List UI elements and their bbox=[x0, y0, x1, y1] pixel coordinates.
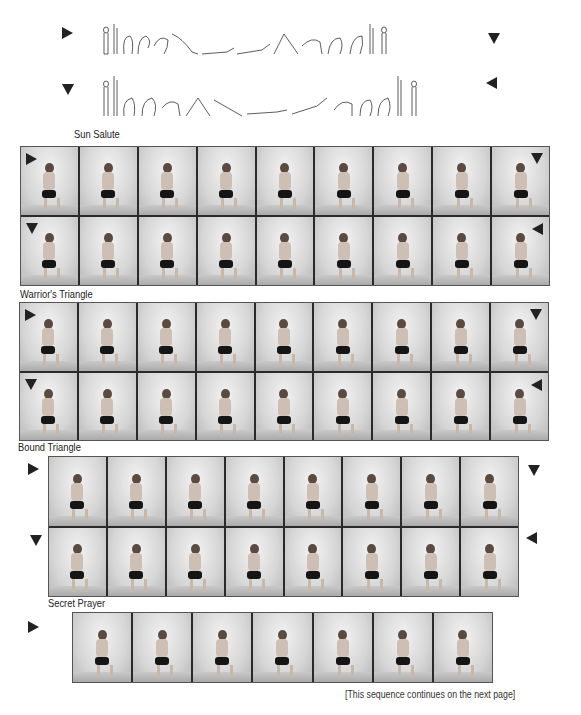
pose-photo bbox=[491, 373, 548, 441]
section-label-bound-triangle: Bound Triangle bbox=[18, 441, 81, 453]
pose-photo bbox=[257, 147, 314, 215]
section-label-sun-salute: Sun Salute bbox=[74, 128, 120, 140]
pose-photo bbox=[315, 217, 372, 285]
down-arrow-icon bbox=[531, 153, 543, 164]
pose-photo bbox=[256, 373, 313, 441]
pose-photo bbox=[314, 613, 372, 682]
pose-photo bbox=[79, 303, 136, 371]
pose-photo bbox=[374, 147, 431, 215]
pose-photo bbox=[256, 303, 313, 371]
pose-photo bbox=[373, 303, 430, 371]
pose-photo bbox=[402, 457, 459, 526]
pose-photo bbox=[257, 217, 314, 285]
down-arrow-icon bbox=[530, 309, 542, 320]
pose-photo bbox=[167, 457, 224, 526]
pose-photo bbox=[314, 303, 371, 371]
pose-photo bbox=[491, 303, 548, 371]
pose-photo bbox=[80, 217, 137, 285]
row-start-arrow bbox=[28, 621, 39, 633]
pose-photo bbox=[138, 373, 195, 441]
pose-photo bbox=[138, 303, 195, 371]
pose-photo bbox=[461, 457, 518, 526]
pose-photo bbox=[461, 528, 518, 597]
pose-photo bbox=[139, 217, 196, 285]
pose-photo bbox=[432, 303, 489, 371]
pose-photo bbox=[20, 373, 77, 441]
row1-start-arrow bbox=[28, 463, 39, 475]
pose-photo bbox=[402, 528, 459, 597]
sun-salute-row2-end-arrow bbox=[486, 77, 497, 89]
pose-photo bbox=[433, 217, 490, 285]
pose-photo bbox=[285, 528, 342, 597]
left-arrow-icon bbox=[532, 223, 543, 235]
pose-photo bbox=[198, 147, 255, 215]
sun-salute-figures-icon bbox=[102, 24, 448, 68]
pose-photo bbox=[433, 147, 490, 215]
pose-photo bbox=[197, 373, 254, 441]
pose-photo bbox=[197, 303, 254, 371]
pose-photo bbox=[133, 613, 191, 682]
pose-photo bbox=[226, 457, 283, 526]
pose-photo bbox=[373, 373, 430, 441]
photo-grid-bound-triangle bbox=[19, 302, 549, 441]
pose-photo bbox=[492, 217, 549, 285]
pose-photo bbox=[167, 528, 224, 597]
continues-note: [This sequence continues on the next pag… bbox=[345, 689, 515, 700]
pose-photo bbox=[20, 303, 77, 371]
sun-salute-row2-start-arrow bbox=[62, 84, 74, 95]
down-arrow-icon bbox=[25, 379, 37, 390]
down-arrow-icon bbox=[26, 223, 38, 234]
pose-photo bbox=[285, 457, 342, 526]
pose-photo bbox=[492, 147, 549, 215]
start-right-arrow-icon bbox=[26, 153, 37, 165]
pose-photo bbox=[80, 147, 137, 215]
pose-photo bbox=[49, 457, 106, 526]
pose-photo bbox=[226, 528, 283, 597]
pose-photo bbox=[253, 613, 311, 682]
pose-photo bbox=[79, 373, 136, 441]
photo-grid-secret-prayer bbox=[48, 456, 519, 597]
left-arrow-icon bbox=[531, 379, 542, 391]
sun-salute-row1-start-arrow bbox=[62, 27, 73, 39]
sun-salute-figures-icon bbox=[102, 76, 448, 120]
pose-photo bbox=[374, 217, 431, 285]
pose-photo bbox=[73, 613, 131, 682]
pose-photo bbox=[21, 217, 78, 285]
pose-photo bbox=[434, 613, 492, 682]
pose-photo bbox=[139, 147, 196, 215]
sun-salute-sketch-row1 bbox=[102, 24, 448, 68]
pose-photo bbox=[49, 528, 106, 597]
photo-grid-warriors-triangle bbox=[20, 146, 550, 286]
pose-photo bbox=[314, 373, 371, 441]
pose-photo bbox=[315, 147, 372, 215]
start-right-arrow-icon bbox=[25, 309, 36, 321]
photo-grid-final-row bbox=[72, 612, 493, 683]
pose-photo bbox=[108, 457, 165, 526]
sun-salute-sketch-row2 bbox=[102, 76, 448, 120]
pose-photo bbox=[198, 217, 255, 285]
pose-photo bbox=[432, 373, 489, 441]
pose-photo bbox=[21, 147, 78, 215]
row2-end-arrow bbox=[526, 532, 537, 544]
row1-end-arrow bbox=[528, 465, 540, 476]
pose-photo bbox=[343, 528, 400, 597]
section-label-secret-prayer: Secret Prayer bbox=[48, 597, 105, 609]
sun-salute-row1-end-arrow bbox=[488, 33, 500, 44]
pose-photo bbox=[108, 528, 165, 597]
pose-photo bbox=[374, 613, 432, 682]
pose-photo bbox=[193, 613, 251, 682]
pose-photo bbox=[343, 457, 400, 526]
row2-start-arrow bbox=[30, 535, 42, 546]
section-label-warriors-triangle: Warrior's Triangle bbox=[20, 288, 93, 300]
